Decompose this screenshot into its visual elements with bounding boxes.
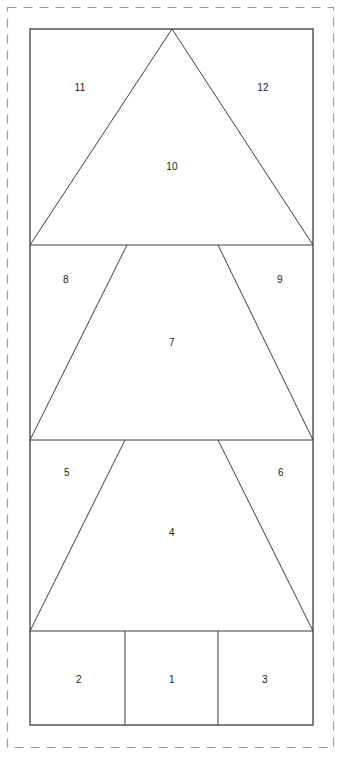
christmas-tree-pattern-diagram: 11 12 10 8 9 7 5 6 4 2 1 3 <box>0 0 342 762</box>
piece-label-12: 12 <box>257 82 269 93</box>
piece-label-3: 3 <box>262 674 268 685</box>
piece-label-8: 8 <box>63 274 69 285</box>
piece-label-5: 5 <box>64 467 70 478</box>
piece-label-11: 11 <box>75 82 86 93</box>
diagram-root: 11 12 10 8 9 7 5 6 4 2 1 3 <box>0 0 342 762</box>
piece-label-9: 9 <box>277 274 283 285</box>
piece-label-4: 4 <box>169 527 175 538</box>
piece-label-1: 1 <box>169 674 175 685</box>
piece-label-7: 7 <box>169 337 175 348</box>
piece-label-6: 6 <box>278 467 284 478</box>
block-outline-rectangle <box>30 29 313 725</box>
piece-label-10: 10 <box>166 161 178 172</box>
piece-label-2: 2 <box>76 674 82 685</box>
